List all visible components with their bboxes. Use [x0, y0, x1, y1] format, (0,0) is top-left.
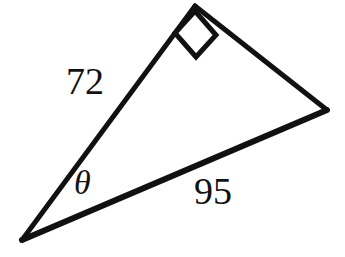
- triangle-edge-leg-unlabeled: [195, 6, 327, 110]
- angle-label-theta: θ: [74, 166, 91, 200]
- side-length-label-95: 95: [194, 172, 232, 210]
- side-length-label-72: 72: [66, 62, 104, 100]
- figure-canvas: 72 95 θ: [0, 0, 345, 257]
- right-triangle-drawing: [0, 0, 345, 257]
